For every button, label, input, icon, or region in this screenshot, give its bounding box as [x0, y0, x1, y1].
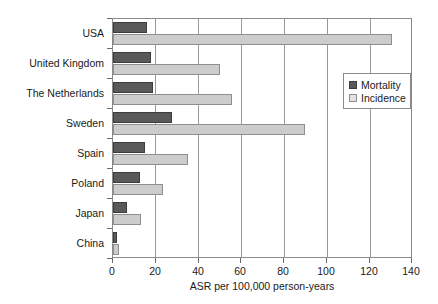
- bar-chart: USA United Kingdom The Netherlands Swede…: [0, 0, 438, 304]
- bar-incidence-spain: [113, 154, 188, 165]
- bar-group-usa: [113, 19, 411, 49]
- bar-mortality-sweden: [113, 112, 172, 123]
- bar-incidence-japan: [113, 214, 141, 225]
- bar-incidence-the-netherlands: [113, 94, 232, 105]
- x-axis-tick: [369, 258, 370, 263]
- bar-mortality-poland: [113, 172, 140, 183]
- y-axis-label-usa: USA: [0, 27, 104, 39]
- legend-label-mortality: Mortality: [361, 79, 401, 91]
- bar-group-sweden: [113, 109, 411, 139]
- bar-mortality-usa: [113, 22, 147, 33]
- y-axis-label-sweden: Sweden: [0, 117, 104, 129]
- incidence-swatch-icon: [349, 94, 357, 102]
- x-axis-tick: [411, 258, 412, 263]
- x-axis-tick: [326, 258, 327, 263]
- x-axis-tick: [155, 258, 156, 263]
- y-axis-label-the-netherlands: The Netherlands: [0, 87, 104, 99]
- y-axis-label-china: China: [0, 237, 104, 249]
- x-axis-tick: [240, 258, 241, 263]
- bar-incidence-sweden: [113, 124, 305, 135]
- x-axis-tick-label-120: 120: [349, 265, 389, 277]
- x-axis-tick-label-60: 60: [220, 265, 260, 277]
- x-axis-tick-label-0: 0: [92, 265, 132, 277]
- x-axis-tick: [198, 258, 199, 263]
- x-axis-tick-label-20: 20: [135, 265, 175, 277]
- legend-label-incidence: Incidence: [361, 92, 406, 104]
- bar-mortality-china: [113, 232, 117, 243]
- bar-incidence-china: [113, 244, 119, 255]
- y-axis-label-japan: Japan: [0, 207, 104, 219]
- x-axis-tick: [283, 258, 284, 263]
- legend-item-mortality: Mortality: [349, 78, 406, 91]
- plot-area: [112, 18, 412, 258]
- x-axis-tick-label-40: 40: [178, 265, 218, 277]
- bar-group-spain: [113, 139, 411, 169]
- bar-group-poland: [113, 169, 411, 199]
- bar-group-china: [113, 229, 411, 259]
- y-axis-label-poland: Poland: [0, 177, 104, 189]
- x-axis-tick: [112, 258, 113, 263]
- bar-mortality-spain: [113, 142, 145, 153]
- bar-incidence-usa: [113, 34, 392, 45]
- y-axis-labels: USA United Kingdom The Netherlands Swede…: [0, 18, 108, 258]
- bar-mortality-united-kingdom: [113, 52, 151, 63]
- bar-mortality-the-netherlands: [113, 82, 153, 93]
- y-axis-label-united-kingdom: United Kingdom: [0, 57, 104, 69]
- y-axis-label-spain: Spain: [0, 147, 104, 159]
- x-axis-tick-label-100: 100: [306, 265, 346, 277]
- bar-mortality-japan: [113, 202, 127, 213]
- bar-group-japan: [113, 199, 411, 229]
- x-axis-title: ASR per 100,000 person-years: [112, 280, 412, 292]
- bar-incidence-united-kingdom: [113, 64, 220, 75]
- x-axis-tick-label-140: 140: [391, 265, 431, 277]
- legend: Mortality Incidence: [343, 73, 411, 109]
- bar-incidence-poland: [113, 184, 163, 195]
- x-axis-tick-label-80: 80: [263, 265, 303, 277]
- legend-item-incidence: Incidence: [349, 91, 406, 104]
- mortality-swatch-icon: [349, 81, 357, 89]
